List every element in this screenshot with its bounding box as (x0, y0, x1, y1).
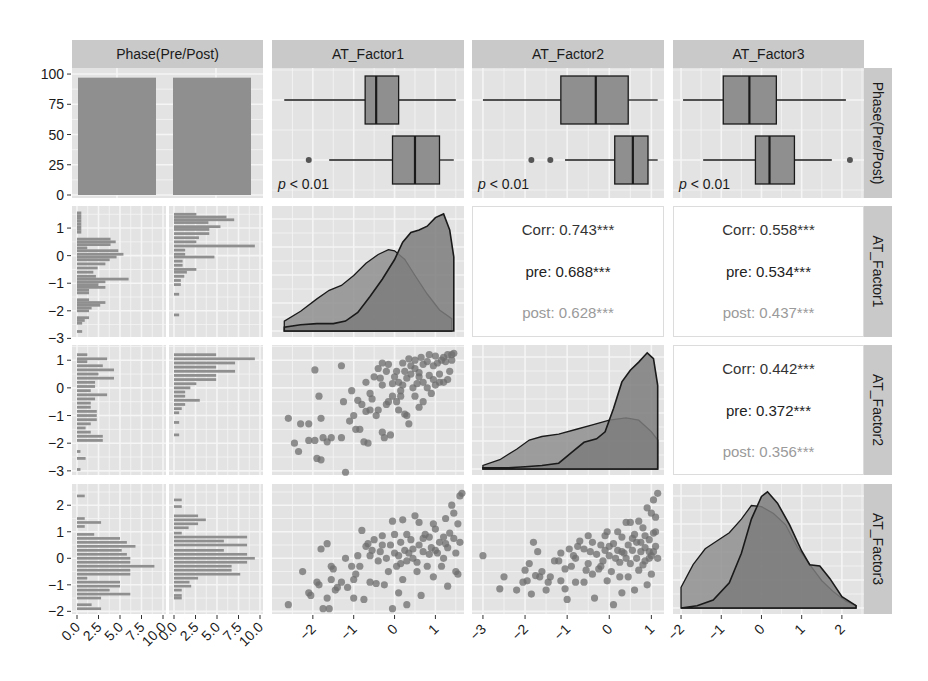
y-tick-label: 1 (56, 220, 64, 236)
density-panel-AT_Factor1 (272, 206, 464, 337)
scatter-point (393, 368, 400, 375)
scatter-point (446, 368, 453, 375)
scatter-point (395, 589, 402, 596)
scatter-point (440, 555, 447, 562)
scatter-point (383, 401, 390, 408)
y-tick-label: −1 (48, 408, 64, 424)
scatter-point (381, 434, 388, 441)
histogram-bar (174, 526, 189, 529)
scatter-point (442, 540, 449, 547)
scatter-point (338, 579, 345, 586)
scatter-point (585, 532, 592, 539)
x-tick-label: 0 (599, 621, 616, 638)
histogram-bar (174, 544, 247, 547)
histogram-bar (174, 253, 185, 256)
histogram-bar (77, 589, 110, 592)
scatter-point (633, 555, 640, 562)
scatter-point (342, 469, 349, 476)
scatter-panel-AT_Factor2_vs_AT_Factor3 (472, 484, 664, 614)
histogram-bar (77, 565, 154, 568)
scatter-point (344, 584, 351, 591)
scatter-point (442, 358, 449, 365)
scatter-point (395, 552, 402, 559)
histogram-bar (77, 263, 105, 266)
scatter-point (561, 585, 568, 592)
scatter-point (430, 376, 437, 383)
scatter-point (315, 393, 322, 400)
scatter-point (564, 596, 571, 603)
scatter-point (593, 551, 600, 558)
p-value-label: p < 0.01 (678, 176, 730, 192)
histogram-bar (174, 536, 247, 539)
scatter-point (338, 434, 345, 441)
scatter-point (403, 557, 410, 564)
histogram-bar (174, 260, 183, 263)
histogram-bar (174, 561, 247, 564)
scatter-point (648, 571, 655, 578)
histogram-bar (77, 289, 89, 292)
scatter-point (618, 548, 625, 555)
y-tick-label: −2 (48, 435, 64, 451)
scatter-point (358, 527, 365, 534)
scatter-point (397, 387, 404, 394)
histogram-bar (77, 220, 81, 223)
histogram-bar (77, 364, 103, 367)
scatter-point (299, 568, 306, 575)
histogram-bar (77, 553, 127, 556)
histogram-bar (174, 522, 198, 525)
scatter-point (652, 514, 659, 521)
scatter-point (291, 440, 298, 447)
histogram-bar (77, 271, 93, 274)
histogram-bar (77, 577, 87, 580)
correlation-pre: pre: 0.688*** (525, 263, 610, 280)
histogram-bar (77, 253, 123, 256)
scatter-point (399, 576, 406, 583)
scatter-point (405, 355, 412, 362)
scatter-point (641, 532, 648, 539)
histogram-bar (77, 212, 81, 215)
scatter-point (328, 576, 335, 583)
scatter-point (413, 559, 420, 566)
histogram-bar (77, 249, 118, 252)
histogram-bar (77, 431, 91, 434)
scatter-point (387, 431, 394, 438)
scatter-point (395, 406, 402, 413)
scatter-point (635, 518, 642, 525)
scatter-point (415, 369, 422, 376)
histogram-bar (77, 427, 86, 430)
scatter-point (317, 545, 324, 552)
histogram-bar (174, 395, 185, 398)
histogram-bar (77, 393, 107, 396)
correlation-overall: Corr: 0.558*** (722, 221, 815, 238)
scatter-point (448, 502, 455, 509)
scatter-point (366, 390, 373, 397)
histogram-bar (77, 228, 81, 231)
y-tick-label: −2 (48, 303, 64, 319)
scatter-point (557, 577, 564, 584)
histogram-bar (174, 549, 224, 552)
scatter-point (629, 547, 636, 554)
scatter-point (297, 420, 304, 427)
column-strip-label: AT_Factor2 (532, 46, 604, 62)
histogram-bar (174, 213, 196, 216)
scatter-point (530, 539, 537, 546)
scatter-point (366, 552, 373, 559)
scatter-point (524, 577, 531, 584)
histogram-bar (174, 256, 214, 259)
histogram-bar (77, 593, 130, 596)
scatter-point (432, 352, 439, 359)
histogram-bar (77, 389, 91, 392)
histogram-bar (77, 573, 130, 576)
scatter-point (606, 552, 613, 559)
row-strip-label: AT_Factor3 (870, 513, 886, 585)
histogram-bar (174, 403, 185, 406)
histogram-bar (174, 421, 179, 424)
p-value-text: < 0.01 (286, 176, 329, 192)
scatter-point (650, 548, 657, 555)
scatter-point (415, 541, 422, 548)
histogram-bar (77, 278, 129, 281)
scatter-point (371, 373, 378, 380)
scatter-point (403, 601, 410, 608)
histogram-bar (174, 353, 216, 356)
correlation-post: post: 0.356*** (723, 443, 815, 460)
